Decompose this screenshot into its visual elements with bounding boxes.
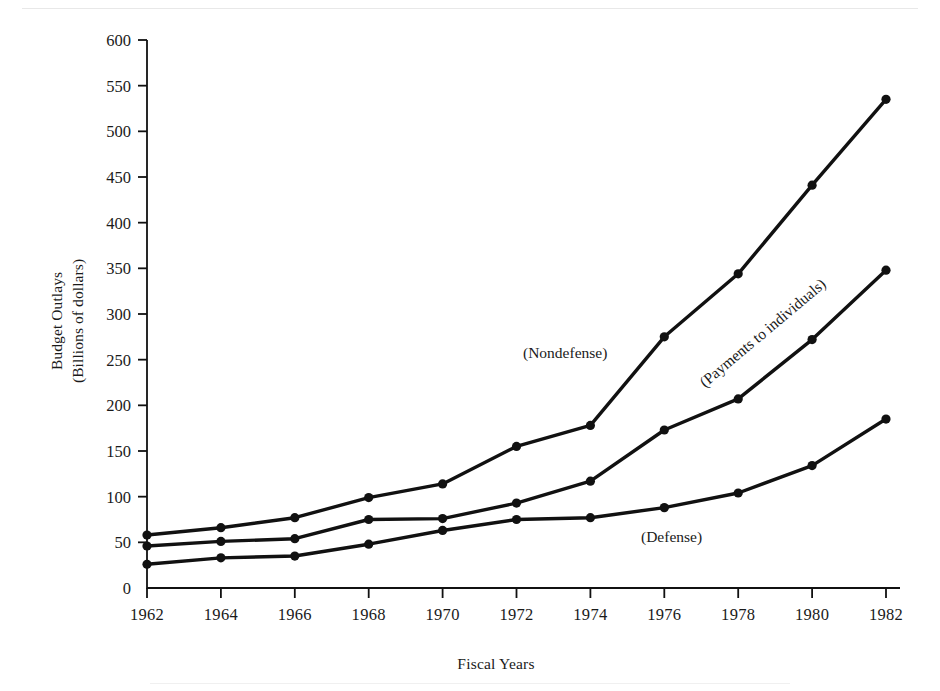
data-point-marker xyxy=(142,530,151,539)
data-point-marker xyxy=(512,498,521,507)
y-tick-label: 450 xyxy=(106,168,131,187)
x-tick-label: 1978 xyxy=(721,605,755,624)
data-point-marker xyxy=(142,541,151,550)
x-axis-ticks: 1962196419661968197019721974197619781980… xyxy=(130,588,903,624)
y-tick-label: 0 xyxy=(123,579,131,598)
data-point-marker xyxy=(216,553,225,562)
data-point-marker xyxy=(364,493,373,502)
y-tick-label: 250 xyxy=(106,351,131,370)
data-point-marker xyxy=(881,95,890,104)
y-tick-label: 300 xyxy=(106,305,131,324)
y-tick-label: 150 xyxy=(106,442,131,461)
data-point-marker xyxy=(881,414,890,423)
chart-line-series xyxy=(142,414,890,568)
chart-figure: Budget Outlays (Billions of dollars) Fis… xyxy=(0,0,940,691)
data-point-marker xyxy=(142,560,151,569)
data-point-marker xyxy=(586,421,595,430)
y-tick-label: 400 xyxy=(106,214,131,233)
data-point-marker xyxy=(660,332,669,341)
y-tick-label: 200 xyxy=(106,396,131,415)
y-tick-label: 350 xyxy=(106,259,131,278)
data-point-marker xyxy=(216,537,225,546)
y-tick-label: 600 xyxy=(106,31,131,50)
y-tick-label: 550 xyxy=(106,77,131,96)
y-tick-label: 100 xyxy=(106,488,131,507)
annotation-defense: (Defense) xyxy=(641,528,702,546)
data-point-marker xyxy=(586,477,595,486)
annotation-nondefense: (Nondefense) xyxy=(523,344,607,362)
x-tick-label: 1968 xyxy=(352,605,386,624)
data-point-marker xyxy=(364,540,373,549)
data-point-marker xyxy=(438,479,447,488)
data-point-marker xyxy=(808,335,817,344)
data-point-marker xyxy=(364,515,373,524)
data-point-marker xyxy=(290,534,299,543)
x-tick-label: 1980 xyxy=(795,605,829,624)
line-chart-plot: 050100150200250300350400450500550600 196… xyxy=(0,0,940,691)
data-point-marker xyxy=(660,503,669,512)
data-point-marker xyxy=(216,523,225,532)
x-tick-label: 1982 xyxy=(869,605,903,624)
y-axis-ticks: 050100150200250300350400450500550600 xyxy=(106,31,147,598)
chart-series-group xyxy=(142,95,890,569)
x-tick-label: 1976 xyxy=(647,605,681,624)
x-tick-label: 1972 xyxy=(499,605,533,624)
data-point-marker xyxy=(660,425,669,434)
data-point-marker xyxy=(881,266,890,275)
x-tick-label: 1970 xyxy=(425,605,459,624)
x-tick-label: 1964 xyxy=(204,605,238,624)
y-tick-label: 50 xyxy=(115,533,132,552)
x-tick-label: 1962 xyxy=(130,605,164,624)
data-point-marker xyxy=(734,488,743,497)
data-point-marker xyxy=(586,513,595,522)
data-point-marker xyxy=(808,181,817,190)
data-point-marker xyxy=(734,394,743,403)
y-tick-label: 500 xyxy=(106,122,131,141)
data-point-marker xyxy=(438,526,447,535)
data-point-marker xyxy=(808,461,817,470)
x-tick-label: 1966 xyxy=(278,605,312,624)
data-point-marker xyxy=(512,442,521,451)
data-point-marker xyxy=(438,514,447,523)
data-point-marker xyxy=(290,513,299,522)
data-point-marker xyxy=(290,551,299,560)
data-point-marker xyxy=(734,269,743,278)
x-tick-label: 1974 xyxy=(573,605,607,624)
data-point-marker xyxy=(512,515,521,524)
